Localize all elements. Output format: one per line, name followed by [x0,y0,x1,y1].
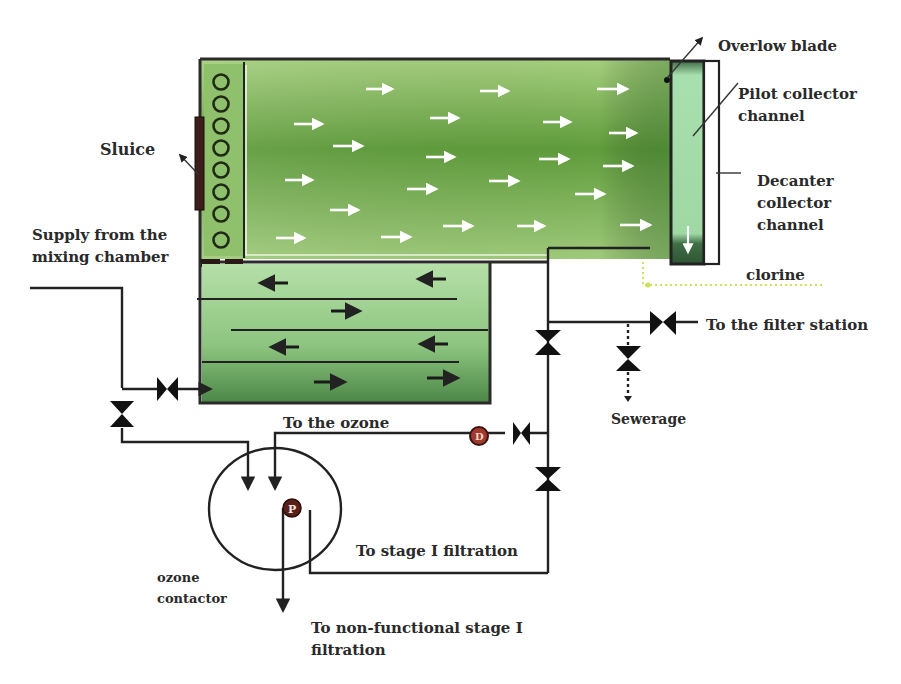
collector-channels [664,38,741,264]
water-treatment-diagram: P D Sluice Supply from the mixing chambe… [0,0,901,684]
label-stage1: To stage I filtration [356,542,518,560]
label-to-ozone: To the ozone [283,414,389,432]
label-ozone-2: contactor [157,591,227,606]
label-pilot-1: Pilot collector [738,85,858,103]
label-pilot-2: channel [738,107,805,125]
label-nonfunc-2: filtration [311,641,386,659]
decanter-collector-channel [704,61,719,264]
svg-text:D: D [475,431,484,442]
label-sluice: Sluice [100,140,155,159]
svg-text:P: P [288,503,296,516]
valve-filter-station[interactable] [650,311,676,335]
valve-riser-lower[interactable] [535,467,561,491]
label-supply-1: Supply from the [32,226,167,244]
label-filter-station: To the filter station [706,316,868,334]
label-sewerage: Sewerage [611,411,686,427]
label-overflow-blade: Overlow blade [718,37,837,55]
label-chlorine: clorine [746,266,805,284]
label-decanter-2: collector [757,194,832,212]
sluice-gate [195,117,204,210]
label-decanter-3: channel [757,216,824,234]
label-nonfunc-1: To non-functional stage I [311,619,523,637]
settling-tank [195,59,670,267]
flow-meter: D [470,427,488,445]
valve-supply-down[interactable] [110,401,134,427]
label-ozone-1: ozone [157,570,199,585]
valve-lower-tank-inlet[interactable] [157,377,178,401]
valve-riser-upper[interactable] [535,330,561,355]
valve-sewerage[interactable] [616,346,641,371]
valve-ozone-line[interactable] [513,422,530,445]
label-decanter-1: Decanter [757,172,835,190]
baffle-tank [197,262,490,403]
label-supply-2: mixing chamber [32,248,169,266]
